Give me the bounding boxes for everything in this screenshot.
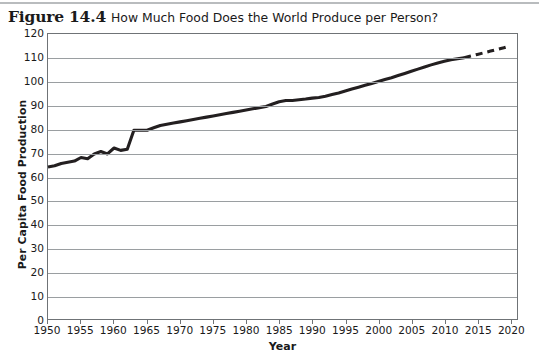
gridline bbox=[48, 225, 517, 226]
y-axis-tick-label: 120 bbox=[2, 28, 44, 38]
figure-caption-text: How Much Food Does the World Produce per… bbox=[111, 10, 438, 25]
data-series-layer bbox=[48, 34, 517, 319]
y-axis-tick-label: 70 bbox=[2, 148, 44, 158]
y-axis-tick-label: 60 bbox=[2, 172, 44, 182]
gridline bbox=[48, 82, 517, 83]
y-axis-tick-label: 20 bbox=[2, 267, 44, 277]
gridline bbox=[48, 58, 517, 59]
chart-canvas: Per Capita Food Production 0102030405060… bbox=[0, 26, 539, 358]
gridline bbox=[48, 249, 517, 250]
figure-title: Figure 14.4How Much Food Does the World … bbox=[8, 7, 533, 26]
gridline bbox=[48, 154, 517, 155]
y-axis-tick-label: 110 bbox=[2, 52, 44, 62]
gridline bbox=[48, 130, 517, 131]
y-axis-tick-label: 90 bbox=[2, 100, 44, 110]
y-axis-tick-label: 40 bbox=[2, 219, 44, 229]
y-axis-tick-label: 10 bbox=[2, 291, 44, 301]
x-axis-tick-labels: 1950195519601965197019751980198519901995… bbox=[47, 320, 518, 336]
y-axis-tick-labels: 0102030405060708090100110120 bbox=[0, 33, 44, 320]
y-axis-tick-label: 80 bbox=[2, 124, 44, 134]
y-axis-tick-label: 30 bbox=[2, 243, 44, 253]
y-axis-tick-label: 50 bbox=[2, 195, 44, 205]
data-line-observed bbox=[48, 58, 464, 167]
gridline bbox=[48, 178, 517, 179]
gridline bbox=[48, 106, 517, 107]
gridline bbox=[48, 201, 517, 202]
gridline bbox=[48, 297, 517, 298]
top-divider-rule bbox=[0, 2, 539, 4]
data-line-projected bbox=[464, 46, 510, 58]
x-axis-tick-label: 2020 bbox=[491, 324, 531, 336]
figure-container: Figure 14.4How Much Food Does the World … bbox=[0, 0, 539, 358]
figure-number-label: Figure 14.4 bbox=[8, 7, 106, 26]
x-axis-title: Year bbox=[47, 340, 518, 353]
gridline bbox=[48, 273, 517, 274]
y-axis-tick-label: 100 bbox=[2, 76, 44, 86]
plot-area bbox=[47, 33, 518, 320]
